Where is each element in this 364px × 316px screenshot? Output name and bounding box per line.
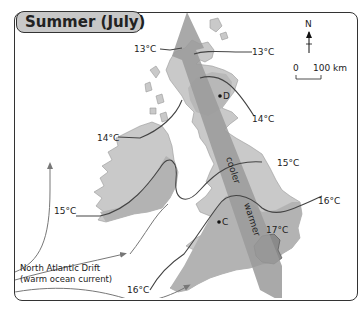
drift-arrow-north xyxy=(15,165,50,272)
isotherm-label-15-west: 15°C xyxy=(54,206,76,216)
shetland-orkney-islands xyxy=(210,18,228,40)
place-c-label: C xyxy=(222,217,228,227)
drift-arrow-bottom xyxy=(15,286,188,301)
compass-label: N xyxy=(305,19,312,29)
map-title: Summer (July) xyxy=(25,13,145,31)
isotherm-label-16-west: 16°C xyxy=(127,285,149,295)
scale-bar: 0 100 km xyxy=(293,63,347,79)
isotherm-label-16-east: 16°C xyxy=(318,196,340,206)
isotherm-label-17: 17°C xyxy=(266,225,288,235)
scale-end-label: 100 km xyxy=(313,63,347,73)
place-c-marker xyxy=(217,220,221,224)
cut-off-caption xyxy=(14,303,356,316)
place-d-marker xyxy=(218,94,222,98)
place-d-label: D xyxy=(223,91,230,101)
isotherm-label-14-east: 14°C xyxy=(252,114,274,124)
current-label-line1: North Atlantic Drift xyxy=(20,263,101,273)
uk-temperature-map: 13°C 13°C 14°C 14°C 15°C 15°C 16°C 16°C … xyxy=(0,0,364,316)
isotherm-label-15-east: 15°C xyxy=(277,158,299,168)
scale-start-label: 0 xyxy=(293,63,299,73)
map-title-tab: Summer (July) xyxy=(16,11,143,33)
isotherm-label-14-west: 14°C xyxy=(97,133,119,143)
current-label-line2: (warm ocean current) xyxy=(20,274,112,284)
isotherm-label-13-east: 13°C xyxy=(252,47,274,57)
north-arrow-icon: N xyxy=(305,19,312,53)
isotherm-label-13-west: 13°C xyxy=(134,44,156,54)
hebrides-islands xyxy=(145,66,168,122)
